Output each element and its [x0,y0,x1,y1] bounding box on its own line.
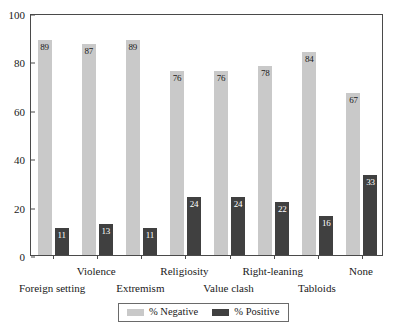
x-axis-category-label: Extremism [116,283,164,294]
bar-value-label: 89 [126,43,140,52]
bar-value-label: 22 [275,205,289,214]
bar-neg: 76 [214,71,228,255]
bar-pos: 24 [187,197,201,255]
y-axis-tick-label: 40 [14,155,31,166]
bar-neg: 87 [82,44,96,255]
bar-group: 8416 [302,15,333,255]
x-axis-category-label: Tabloids [298,283,336,294]
bar-group: 7822 [258,15,289,255]
x-axis-category-label: Right-leaning [242,266,303,277]
y-axis-tick-label: 60 [14,106,31,117]
bar-value-label: 11 [143,231,157,240]
bar-group: 7624 [214,15,245,255]
legend-item: % Negative [127,307,198,318]
legend-label: % Negative [149,307,198,318]
x-axis-category-label: None [349,266,373,277]
bar-value-label: 76 [170,74,184,83]
bar-value-label: 87 [82,47,96,56]
chart-legend: % Negative% Positive [118,303,289,322]
bar-pos: 22 [275,202,289,255]
bar-group: 6733 [346,15,377,255]
x-axis-tick-mark [318,255,319,259]
bar-pos: 11 [143,228,157,255]
bar-value-label: 78 [258,69,272,78]
bar-value-label: 84 [302,55,316,64]
bar-value-label: 67 [346,96,360,105]
bar-group: 8911 [126,15,157,255]
bar-pos: 33 [363,175,377,255]
bar-pos: 13 [99,224,113,255]
y-axis-tick-mark [31,257,35,258]
bar-value-label: 13 [99,227,113,236]
x-axis-tick-mark [97,255,98,259]
bar-value-label: 89 [38,43,52,52]
y-axis-tick-label: 20 [14,203,31,214]
bar-value-label: 24 [231,200,245,209]
bar-value-label: 76 [214,74,228,83]
bar-value-label: 11 [55,231,69,240]
bar-value-label: 33 [363,178,377,187]
bar-neg: 76 [170,71,184,255]
plot-area: 020406080100 891187138911762476247822841… [30,14,383,256]
legend-swatch-pos [212,309,229,316]
legend-swatch-neg [127,309,144,316]
bar-pos: 24 [231,197,245,255]
legend-item: % Positive [212,307,279,318]
bar-group: 8911 [38,15,69,255]
legend-label: % Positive [234,307,279,318]
bars-layer: 89118713891176247624782284166733 [31,15,382,255]
x-axis-category-label: Value clash [203,283,253,294]
bar-neg: 89 [38,40,52,255]
bar-value-label: 24 [187,200,201,209]
bar-chart: 020406080100 891187138911762476247822841… [0,0,396,331]
x-axis-tick-mark [230,255,231,259]
x-axis-tick-mark [141,255,142,259]
bar-group: 7624 [170,15,201,255]
bar-pos: 16 [319,216,333,255]
x-axis-category-label: Violence [77,266,116,277]
x-axis-category-label: Religiosity [160,266,208,277]
x-axis-tick-mark [274,255,275,259]
y-axis-tick-label: 80 [14,58,31,69]
bar-group: 8713 [82,15,113,255]
bar-value-label: 16 [319,219,333,228]
bar-pos: 11 [55,228,69,255]
x-axis-tick-mark [362,255,363,259]
bar-neg: 78 [258,66,272,255]
y-axis-tick-label: 0 [20,252,32,263]
x-axis-tick-mark [53,255,54,259]
y-axis-tick-label: 100 [9,10,32,21]
x-axis-tick-mark [185,255,186,259]
bar-neg: 84 [302,52,316,255]
bar-neg: 89 [126,40,140,255]
x-axis-category-label: Foreign setting [19,283,85,294]
bar-neg: 67 [346,93,360,255]
